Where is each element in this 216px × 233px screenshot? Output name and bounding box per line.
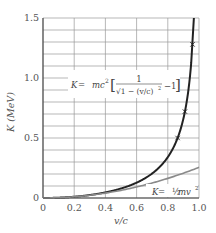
formula-mc: mc <box>92 80 105 90</box>
curves <box>43 18 199 198</box>
formula-bracket-left: [ <box>110 76 116 94</box>
formula-equals: = <box>78 80 85 90</box>
formula-exp: 2 <box>105 77 109 84</box>
formula-bracket-right: ] <box>175 76 181 94</box>
x-tick-label: 0 <box>40 202 46 213</box>
classical-formula-annotation: K = ½ mv 2 <box>146 184 199 197</box>
x-tick-label: 0.2 <box>67 202 82 213</box>
formula-numerator: 1 <box>136 74 141 84</box>
y-tick-label: 1.0 <box>24 72 39 83</box>
formula-denominator: √1 − (v/c) <box>116 87 153 96</box>
grid <box>43 18 199 198</box>
x-axis-label: v/c <box>114 215 129 226</box>
x-tick-label: 0.6 <box>129 202 144 213</box>
formula-exp: 2 <box>195 185 199 191</box>
x-tick-label: 0.4 <box>98 202 113 213</box>
y-axis-label: K (MeV) <box>5 92 16 133</box>
x-tick-label: 0.8 <box>160 202 175 213</box>
x-tick-label: 1.0 <box>191 202 206 213</box>
relativistic-formula-annotation: K = mc 2 [ 1 √1 − (v/c) 2 −1 ] <box>68 70 181 98</box>
formula-equals: = <box>158 187 165 197</box>
relativistic-curve <box>43 18 194 198</box>
y-tick-label: 0.5 <box>24 132 39 143</box>
formula-mv: mv <box>178 187 191 197</box>
y-tick-label: 1.5 <box>24 12 39 23</box>
formula-K: K <box>70 80 78 90</box>
chart: 00.20.40.60.81.000.51.01.5 K (MeV) v/c K… <box>0 0 216 233</box>
y-tick-label: 0 <box>33 192 39 203</box>
formula-denominator-exp: 2 <box>158 85 161 91</box>
